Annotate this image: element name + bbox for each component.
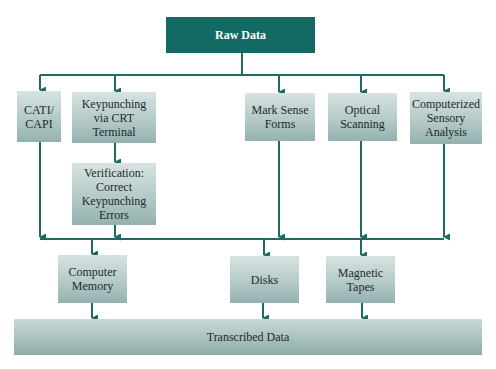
optical-scanning-label: Optical Scanning xyxy=(340,103,385,131)
verification-node: Verification: Correct Keypunching Errors xyxy=(72,163,156,225)
computer-memory-label: Computer Memory xyxy=(69,265,117,293)
transcribed-data-node: Transcribed Data xyxy=(14,319,482,355)
disks-node: Disks xyxy=(230,256,299,303)
verification-label: Verification: Correct Keypunching Errors xyxy=(82,166,147,222)
mark-sense-forms-node: Mark Sense Forms xyxy=(245,93,315,141)
computerized-sensory-analysis-node: Computerized Sensory Analysis xyxy=(410,92,482,144)
magnetic-tapes-node: Magnetic Tapes xyxy=(326,256,395,303)
disks-label: Disks xyxy=(251,273,278,287)
keypunching-node: Keypunching via CRT Terminal xyxy=(72,92,156,143)
transcribed-data-label: Transcribed Data xyxy=(207,330,290,344)
mark-sense-forms-label: Mark Sense Forms xyxy=(252,103,309,131)
computer-memory-node: Computer Memory xyxy=(58,255,127,303)
magnetic-tapes-label: Magnetic Tapes xyxy=(338,266,383,294)
raw-data-node: Raw Data xyxy=(166,17,315,53)
keypunching-label: Keypunching via CRT Terminal xyxy=(82,97,147,139)
computerized-sensory-analysis-label: Computerized Sensory Analysis xyxy=(412,97,480,139)
optical-scanning-node: Optical Scanning xyxy=(328,93,397,141)
cati-capi-node: CATI/ CAPI xyxy=(17,91,61,142)
raw-data-label: Raw Data xyxy=(215,28,266,42)
cati-capi-label: CATI/ CAPI xyxy=(24,103,54,131)
